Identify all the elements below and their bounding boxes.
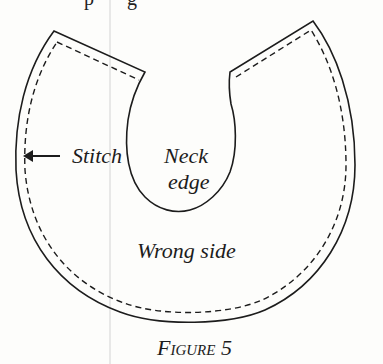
wrong-side-label: Wrong side [137,238,236,264]
neck-label: Neck [164,143,208,169]
figure-caption: Figure 5 [157,335,232,361]
stitch-label: Stitch [72,143,122,169]
edge-label: edge [168,169,210,195]
